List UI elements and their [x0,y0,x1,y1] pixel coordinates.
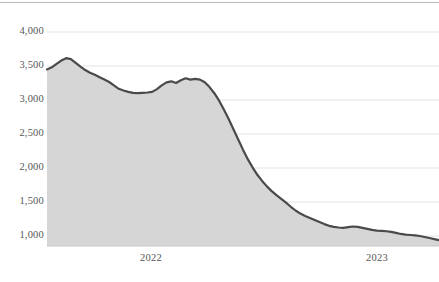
area-chart-plot [0,0,439,282]
chart-container: 4,000 3,500 3,000 2,500 2,000 1,500 1,00… [0,0,439,282]
